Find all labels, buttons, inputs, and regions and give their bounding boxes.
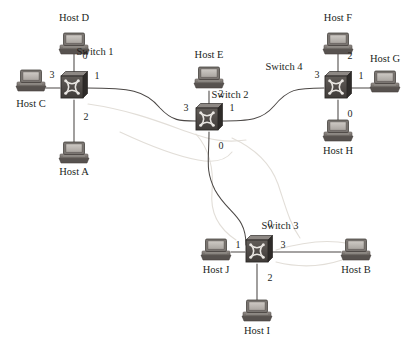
switch-icon[interactable] [61, 72, 88, 99]
port-label-switch1-0: 0 [83, 51, 88, 61]
port-label-switch1-1: 1 [95, 71, 100, 81]
host-label-hostF: Host F [324, 13, 352, 24]
host-label-hostG: Host G [370, 54, 400, 65]
host-label-hostE: Host E [195, 50, 224, 61]
host-label-hostJ: Host J [203, 265, 230, 276]
switch-icon[interactable] [246, 236, 273, 263]
host-label-hostI: Host I [244, 326, 270, 337]
host-icon[interactable] [341, 239, 371, 260]
port-label-switch4-0: 0 [348, 109, 353, 119]
port-label-switch1-3: 3 [50, 70, 55, 80]
port-label-switch4-3: 3 [315, 70, 320, 80]
port-label-switch3-1: 1 [236, 240, 241, 250]
switch-icon[interactable] [196, 104, 223, 131]
port-label-switch4-2: 2 [348, 51, 353, 61]
port-label-switch2-3: 3 [184, 103, 189, 113]
network-diagram: Host DHost CHost AHost EHost FHost GHost… [0, 0, 413, 342]
host-icon[interactable] [370, 71, 400, 92]
switch-icon-layer [61, 72, 352, 263]
switch-label-switch4: Switch 4 [265, 62, 302, 73]
host-label-hostC: Host C [16, 99, 45, 110]
host-icon[interactable] [242, 300, 272, 321]
host-icon[interactable] [323, 120, 353, 141]
switch-icon[interactable] [325, 72, 352, 99]
host-icon[interactable] [59, 142, 89, 163]
host-label-hostH: Host H [323, 146, 353, 157]
ghost-artifact-curve [120, 132, 232, 161]
link-switch2-switch3[interactable] [208, 132, 246, 245]
port-label-switch2-1: 1 [230, 103, 235, 113]
host-icon[interactable] [194, 67, 224, 88]
host-label-hostA: Host A [59, 167, 88, 178]
switch-label-switch2: Switch 2 [211, 90, 248, 101]
ghost-artifact-curve [196, 134, 236, 240]
port-label-switch1-2: 2 [84, 112, 89, 122]
port-label-switch2-2: 2 [219, 89, 224, 99]
host-label-hostB: Host B [341, 265, 370, 276]
port-label-switch3-0: 0 [268, 219, 273, 229]
port-label-switch4-1: 1 [359, 71, 364, 81]
port-label-switch3-2: 2 [268, 273, 273, 283]
host-icon[interactable] [16, 70, 46, 91]
host-label-hostD: Host D [59, 13, 89, 24]
host-icon[interactable] [201, 239, 231, 260]
port-label-switch3-3: 3 [281, 240, 286, 250]
port-label-switch2-0: 0 [219, 141, 224, 151]
